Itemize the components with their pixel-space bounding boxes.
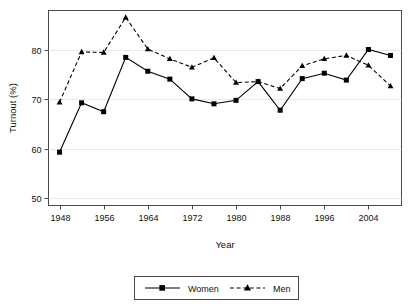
x-tick-label-1980: 1980 <box>226 213 246 223</box>
x-axis-ticks <box>61 206 369 210</box>
y-axis-ticks <box>45 51 49 199</box>
x-tick-label-1988: 1988 <box>270 213 290 223</box>
x-tick-label-1964: 1964 <box>138 213 158 223</box>
data-point-women-1976 <box>211 101 216 106</box>
y-tick-label-50: 50 <box>31 194 41 204</box>
y-axis-tick-labels: 50607080 <box>31 46 41 204</box>
plot-area-frame <box>49 11 402 206</box>
data-point-women-2008 <box>388 53 393 58</box>
legend-label-men: Men <box>273 284 291 294</box>
data-point-women-1996 <box>322 71 327 76</box>
y-tick-label-80: 80 <box>31 46 41 56</box>
data-point-women-1960 <box>123 55 128 60</box>
data-point-women-1988 <box>278 108 283 113</box>
data-point-women-1952 <box>79 100 84 105</box>
x-axis-title: Year <box>215 239 234 250</box>
data-point-women-1980 <box>234 98 239 103</box>
x-tick-label-1948: 1948 <box>50 213 70 223</box>
data-point-women-1968 <box>167 77 172 82</box>
data-point-women-2004 <box>366 47 371 52</box>
data-point-women-2000 <box>344 78 349 83</box>
x-tick-label-1996: 1996 <box>314 213 334 223</box>
y-tick-label-70: 70 <box>31 95 41 105</box>
data-point-women-1992 <box>300 76 305 81</box>
data-point-women-1948 <box>57 150 62 155</box>
chart-legend: Women Men <box>135 277 299 300</box>
x-tick-label-1956: 1956 <box>94 213 114 223</box>
turnout-line-chart: 50607080 1948195619641972198019881996200… <box>0 0 416 307</box>
legend-marker-square-women <box>159 285 165 291</box>
y-tick-label-60: 60 <box>31 145 41 155</box>
chart-figure: 50607080 1948195619641972198019881996200… <box>0 0 416 307</box>
x-axis-tick-labels: 19481956196419721980198819962004 <box>50 213 378 223</box>
data-point-women-1972 <box>189 96 194 101</box>
x-tick-label-2004: 2004 <box>358 213 378 223</box>
y-axis-title: Turnout (%) <box>7 83 18 133</box>
legend-label-women: Women <box>188 284 219 294</box>
data-point-women-1964 <box>145 69 150 74</box>
x-tick-label-1972: 1972 <box>182 213 202 223</box>
data-point-women-1956 <box>101 109 106 114</box>
